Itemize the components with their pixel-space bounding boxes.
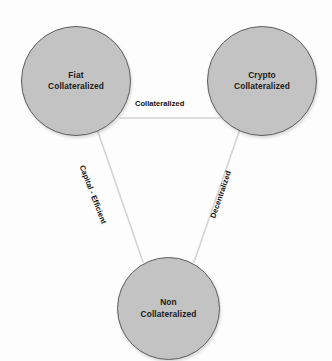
node-non-collateralized[interactable]: Non Collateralized (117, 257, 220, 360)
node-fiat-collateralized[interactable]: Fiat Collateralized (21, 26, 131, 136)
node-crypto-collateralized-label: Crypto Collateralized (234, 70, 290, 93)
diagram-canvas: Fiat Collateralized Crypto Collateralize… (0, 0, 332, 361)
edge-fiat-non (97, 129, 143, 262)
node-fiat-collateralized-label: Fiat Collateralized (48, 70, 104, 93)
node-non-collateralized-label: Non Collateralized (141, 297, 197, 320)
edge-label-collateralized: Collateralized (135, 99, 184, 108)
node-crypto-collateralized[interactable]: Crypto Collateralized (207, 26, 317, 136)
